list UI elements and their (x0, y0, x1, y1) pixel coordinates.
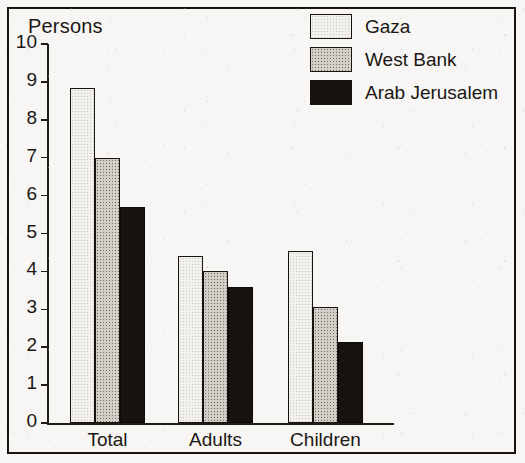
y-axis-line (47, 44, 49, 425)
legend-label-gaza: Gaza (365, 16, 410, 38)
bar-adults-arab-jerusalem (228, 287, 253, 423)
y-axis-tick-label: 2 (9, 334, 37, 356)
y-axis-tick (41, 271, 48, 273)
y-axis-tick (41, 384, 48, 386)
bar-adults-west-bank (203, 271, 228, 423)
scanned-page-background: Persons 012345678910 TotalAdultsChildren… (0, 0, 525, 463)
y-axis-tick-label: 6 (9, 183, 37, 205)
legend-swatch-arab-jerusalem (310, 80, 352, 105)
y-axis-tick-label: 0 (9, 410, 37, 432)
legend-item-west-bank: West Bank (310, 43, 510, 76)
legend-label-arab-jerusalem: Arab Jerusalem (365, 82, 498, 104)
legend-label-west-bank: West Bank (365, 49, 457, 71)
legend-item-gaza: Gaza (310, 10, 510, 43)
x-axis-label-adults: Adults (156, 429, 276, 451)
y-axis-tick-label: 5 (9, 221, 37, 243)
bar-children-gaza (288, 251, 313, 423)
y-axis-tick-label: 7 (9, 145, 37, 167)
bar-children-arab-jerusalem (338, 342, 363, 423)
y-axis-title: Persons (28, 15, 103, 38)
y-axis-tick (41, 43, 48, 45)
y-axis-tick-label: 8 (9, 107, 37, 129)
y-axis-tick (41, 81, 48, 83)
y-axis-tick-label: 4 (9, 258, 37, 280)
y-axis-tick-label: 9 (9, 69, 37, 91)
legend-item-arab-jerusalem: Arab Jerusalem (310, 76, 510, 109)
y-axis-tick (41, 157, 48, 159)
x-axis-label-children: Children (266, 429, 386, 451)
y-axis-tick (41, 119, 48, 121)
x-axis-label-total: Total (48, 429, 168, 451)
bar-total-gaza (70, 88, 95, 423)
y-axis-tick (41, 422, 48, 424)
y-axis-tick (41, 233, 48, 235)
bar-chart-plot: Persons 012345678910 TotalAdultsChildren… (0, 0, 525, 463)
legend-swatch-gaza (310, 14, 352, 39)
y-axis-tick (41, 309, 48, 311)
bar-children-west-bank (313, 307, 338, 423)
y-axis-tick-label: 10 (9, 31, 37, 53)
y-axis-tick (41, 195, 48, 197)
y-axis-tick-label: 3 (9, 296, 37, 318)
bar-total-west-bank (95, 158, 120, 423)
y-axis-tick (41, 346, 48, 348)
x-axis-line (47, 423, 394, 425)
bar-total-arab-jerusalem (120, 207, 145, 423)
y-axis-tick-label: 1 (9, 372, 37, 394)
legend-swatch-west-bank (310, 47, 352, 72)
chart-legend: GazaWest BankArab Jerusalem (310, 10, 510, 109)
bar-adults-gaza (178, 256, 203, 423)
